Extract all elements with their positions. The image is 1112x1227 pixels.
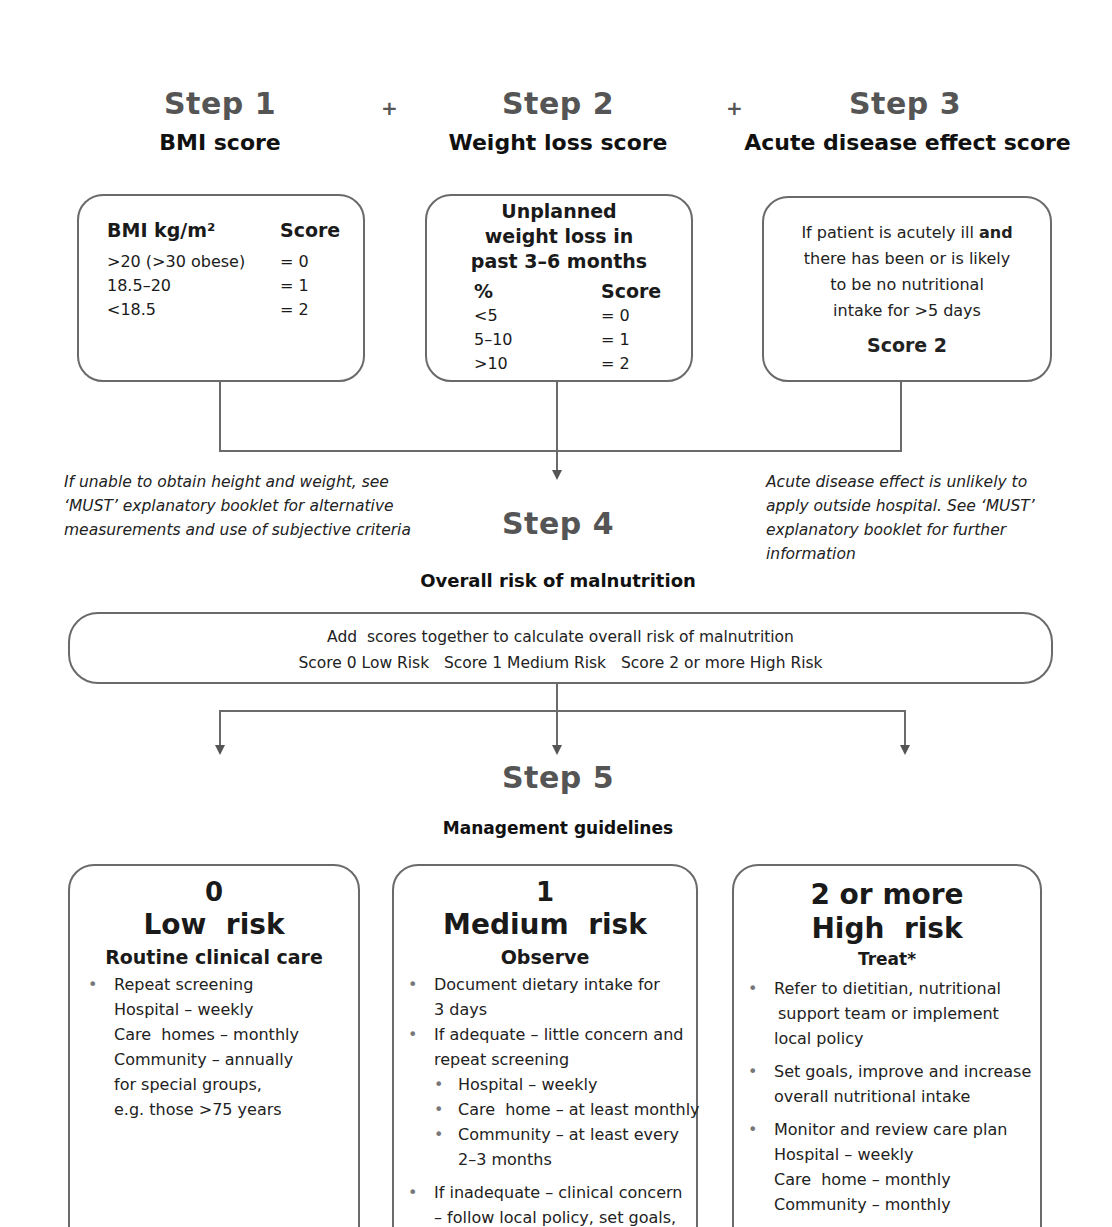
list-item: Monitor and review care plan (736, 1117, 1040, 1142)
list-item: – follow local policy, set goals, (396, 1205, 696, 1227)
medium-risk-card: 1 Medium risk Observe Document dietary i… (392, 864, 698, 1227)
bmi-range: 18.5–20 (107, 274, 280, 298)
acute-disease-box: If patient is acutely ill and there has … (762, 196, 1052, 382)
step5-subtitle: Management guidelines (380, 818, 736, 838)
low-risk-list: Repeat screening Hospital – weekly Care … (70, 972, 358, 1122)
bmi-row: >20 (>30 obese) = 0 (107, 250, 347, 274)
weight-loss-title-1: Unplanned (427, 199, 691, 224)
low-risk-score: 0 (70, 876, 358, 908)
acute-line-1: If patient is acutely ill and (764, 220, 1050, 246)
list-item: Hospital – weekly (396, 1072, 696, 1097)
list-item: repeat screening (396, 1047, 696, 1072)
weight-score: = 2 (601, 352, 630, 376)
step1-subtitle: BMI score (100, 130, 340, 155)
high-risk-label: High risk (734, 912, 1040, 946)
acute-line-2: there has been or is likely (764, 246, 1050, 272)
weight-row: <5 = 0 (474, 304, 674, 328)
bmi-header-label: BMI kg/m² (107, 218, 280, 242)
weight-row: >10 = 2 (474, 352, 674, 376)
bmi-score-box: BMI kg/m² Score >20 (>30 obese) = 0 18.5… (77, 194, 365, 382)
acute-line-3: to be no nutritional (764, 272, 1050, 298)
arrow-down-icon (552, 470, 562, 480)
list-item: Care home – monthly (736, 1167, 1040, 1192)
medium-risk-label: Medium risk (394, 908, 696, 942)
step3-title: Step 3 (805, 86, 1005, 121)
list-item: If inadequate – clinical concern (396, 1180, 696, 1205)
step2-subtitle: Weight loss score (420, 130, 696, 155)
arrow-down-icon (900, 745, 910, 755)
bmi-score: = 0 (280, 250, 309, 274)
bmi-table-header: BMI kg/m² Score (107, 218, 347, 242)
weight-loss-title-3: past 3–6 months (427, 249, 691, 274)
medium-risk-list: Document dietary intake for 3 days If ad… (394, 972, 696, 1227)
connector-line (556, 382, 558, 470)
bmi-score: = 2 (280, 298, 309, 322)
note-height-weight: If unable to obtain height and weight, s… (64, 470, 424, 542)
bmi-row: <18.5 = 2 (107, 298, 347, 322)
connector-line (904, 710, 906, 746)
list-item: Care homes – monthly (76, 1022, 358, 1047)
step2-title: Step 2 (458, 86, 658, 121)
list-item: 2–3 months (396, 1147, 696, 1172)
connector-line (219, 450, 902, 452)
overall-instruction: Add scores together to calculate overall… (70, 624, 1051, 650)
list-item: Document dietary intake for (396, 972, 696, 997)
step3-subtitle: Acute disease effect score (735, 130, 1080, 155)
list-item: local policy (736, 1026, 1040, 1051)
list-item: support team or implement (736, 1001, 1040, 1026)
medium-risk-score: 1 (394, 876, 696, 908)
connector-line (556, 684, 558, 752)
weight-range: 5–10 (474, 328, 601, 352)
list-item: Set goals, improve and increase (736, 1059, 1040, 1084)
weight-score: = 1 (601, 328, 630, 352)
weight-loss-box: Unplanned weight loss in past 3–6 months… (425, 194, 693, 382)
list-item: e.g. those >75 years (76, 1097, 358, 1122)
step5-title: Step 5 (458, 760, 658, 795)
weight-header-score: Score (601, 278, 661, 304)
list-item: Repeat screening (76, 972, 358, 997)
list-item: If adequate – little concern and (396, 1022, 696, 1047)
weight-loss-title-2: weight loss in (427, 224, 691, 249)
bmi-range: <18.5 (107, 298, 280, 322)
weight-range: >10 (474, 352, 601, 376)
connector-line (219, 710, 221, 746)
step4-subtitle: Overall risk of malnutrition (360, 570, 756, 591)
acute-line-4: intake for >5 days (764, 298, 1050, 324)
plus-sign-1: + (381, 96, 398, 120)
medium-risk-action: Observe (394, 944, 696, 970)
high-risk-list: Refer to dietitian, nutritional support … (734, 976, 1040, 1217)
arrow-down-icon (552, 745, 562, 755)
low-risk-action: Routine clinical care (70, 944, 358, 970)
list-item: 3 days (396, 997, 696, 1022)
note-acute-disease: Acute disease effect is unlikely to appl… (766, 470, 1086, 566)
connector-line (219, 382, 221, 452)
weight-header-label: % (474, 278, 601, 304)
list-item: Hospital – weekly (736, 1142, 1040, 1167)
low-risk-card: 0 Low risk Routine clinical care Repeat … (68, 864, 360, 1227)
arrow-down-icon (215, 745, 225, 755)
weight-row: 5–10 = 1 (474, 328, 674, 352)
list-item: Community – annually (76, 1047, 358, 1072)
list-item: overall nutritional intake (736, 1084, 1040, 1109)
high-risk-score: 2 or more (734, 878, 1040, 912)
weight-table-header: % Score (474, 278, 674, 304)
step1-title: Step 1 (120, 86, 320, 121)
list-item: for special groups, (76, 1072, 358, 1097)
list-item: Community – monthly (736, 1192, 1040, 1217)
list-item: Care home – at least monthly (396, 1097, 696, 1122)
bmi-row: 18.5–20 = 1 (107, 274, 347, 298)
step4-title: Step 4 (458, 506, 658, 541)
list-item: Hospital – weekly (76, 997, 358, 1022)
high-risk-action: Treat* (734, 948, 1040, 970)
weight-score: = 0 (601, 304, 630, 328)
weight-range: <5 (474, 304, 601, 328)
list-item: Community – at least every (396, 1122, 696, 1147)
plus-sign-2: + (726, 96, 743, 120)
overall-risk-box: Add scores together to calculate overall… (68, 612, 1053, 684)
overall-score-legend: Score 0 Low Risk Score 1 Medium Risk Sco… (70, 650, 1051, 676)
low-risk-label: Low risk (70, 908, 358, 942)
bmi-score: = 1 (280, 274, 309, 298)
bmi-range: >20 (>30 obese) (107, 250, 280, 274)
high-risk-card: 2 or more High risk Treat* Refer to diet… (732, 864, 1042, 1227)
connector-line (219, 710, 906, 712)
